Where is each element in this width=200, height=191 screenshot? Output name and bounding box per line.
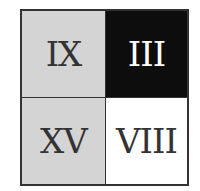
cell-top-right: III: [106, 11, 187, 98]
cell-bottom-right: VIII: [106, 98, 187, 184]
cell-top-left: IX: [22, 11, 106, 98]
cell-bottom-left: XV: [22, 98, 106, 184]
roman-numeral-grid: IX III XV VIII: [20, 9, 189, 186]
